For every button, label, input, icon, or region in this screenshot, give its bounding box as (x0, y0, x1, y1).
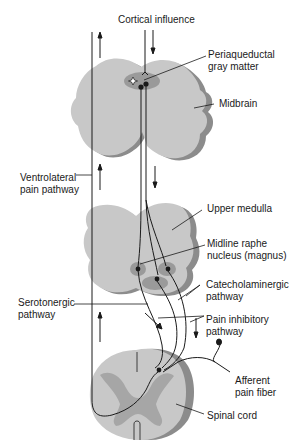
afferent-ganglion-icon (217, 339, 222, 345)
label-catecholaminergic: Catecholaminergic pathway (206, 279, 289, 303)
label-midbrain: Midbrain (219, 98, 257, 110)
label-ventrolateral-pathway: Ventrolateral pain pathway (20, 172, 79, 196)
upper-medulla-section (84, 203, 200, 296)
ventral-median-fissure (134, 421, 140, 440)
label-afferent-pain-fiber: Afferent pain fiber (235, 375, 276, 399)
arrow-up-icon (98, 164, 102, 190)
arrow-up-icon (98, 312, 102, 342)
label-spinal-cord: Spinal cord (207, 410, 257, 422)
arrow-diagonal-down-icon (145, 313, 162, 329)
upper-medulla-body (84, 203, 194, 294)
arrow-up-icon (98, 32, 102, 58)
leader-pain-inhibitory-1 (158, 316, 204, 318)
afferent-fiber-branch (215, 362, 230, 372)
label-periaqueductal-gray: Periaqueductal gray matter (208, 49, 275, 73)
dorsal-horn-neuron (157, 368, 162, 373)
arrow-down-icon (153, 166, 157, 188)
label-pain-inhibitory: Pain inhibitory pathway (206, 314, 269, 338)
label-serotonergic: Serotonergic pathway (18, 297, 75, 321)
label-raphe-nucleus: Midline raphe nucleus (magnus) (207, 238, 286, 262)
arrow-down-icon (151, 30, 155, 54)
pag-neuron-body-2 (143, 81, 148, 86)
raphe-neuron-center (155, 277, 160, 282)
spinal-cord-section (90, 349, 194, 440)
arrow-down-icon (194, 318, 198, 338)
raphe-neuron-right (166, 267, 171, 272)
label-cortical-influence: Cortical influence (118, 14, 195, 26)
label-upper-medulla: Upper medulla (207, 203, 272, 215)
